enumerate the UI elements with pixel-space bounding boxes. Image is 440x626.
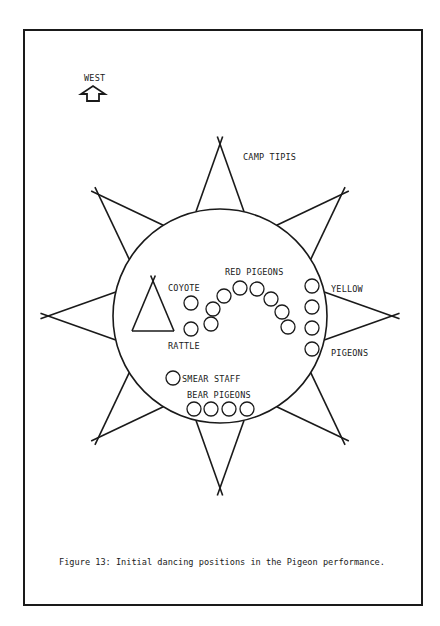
red-pigeon-dancer-circle-icon <box>264 292 278 306</box>
bear-pigeon-dancer-circle-icon <box>187 402 201 416</box>
camp-tipis-label: CAMP TIPIS <box>243 152 296 162</box>
compass: WEST <box>81 73 105 101</box>
tipi-icon <box>91 373 163 445</box>
tipi-icon <box>277 187 349 259</box>
tipi-pole <box>132 275 155 331</box>
tipi-pole <box>277 191 349 225</box>
figure-caption: Figure 13: Initial dancing positions in … <box>59 557 385 567</box>
tipi-icon <box>196 136 244 211</box>
coyote-label: COYOTE <box>168 283 200 293</box>
yellow-pigeon-dancer-circle-icon <box>305 342 319 356</box>
bear-pigeons-label: BEAR PIGEONS <box>187 390 251 400</box>
tipi-pole <box>95 187 129 259</box>
rattle-dancer-circle-icon <box>184 322 198 336</box>
tipi-pole <box>277 407 349 441</box>
yellow-label: YELLOW <box>331 284 364 294</box>
camp-circle-group: CAMP TIPIS <box>40 136 399 495</box>
tipi-icon <box>196 420 244 495</box>
figure-frame <box>24 30 422 605</box>
tipi-pole <box>311 187 345 259</box>
tipi-pole <box>91 407 163 441</box>
rattle-label: RATTLE <box>168 341 200 351</box>
pigeons-label: PIGEONS <box>331 348 368 358</box>
tipi-pole <box>196 420 223 495</box>
tipi-pole <box>324 292 399 319</box>
tipi-pole <box>217 420 244 495</box>
camp-tipis <box>40 136 399 495</box>
coyote-dancer-circle-icon <box>184 296 198 310</box>
smear-staff-label: SMEAR STAFF <box>182 374 241 384</box>
yellow-pigeon-dancer-circle-icon <box>305 279 319 293</box>
figure-page: WEST CAMP TIPIS COYOTE RATTLE RED PIGEON… <box>0 0 440 626</box>
bear-pigeon-dancer-circle-icon <box>204 402 218 416</box>
smear-staff-dancer-circle-icon <box>166 371 180 385</box>
bear-pigeon-dancer-circle-icon <box>240 402 254 416</box>
bear-pigeon-dancer-circle-icon <box>222 402 236 416</box>
tipi-icon <box>324 292 399 340</box>
tipi-icon <box>277 373 349 445</box>
tipi-pole <box>40 292 115 319</box>
red-pigeons-label: RED PIGEONS <box>225 267 284 277</box>
west-label: WEST <box>84 73 105 83</box>
tipi-pole <box>196 136 223 211</box>
tipi-pole <box>217 136 244 211</box>
tipi-pole <box>91 191 163 225</box>
tipi-pole <box>324 313 399 340</box>
red-pigeon-dancer-circle-icon <box>281 320 295 334</box>
up-arrow-icon <box>81 86 105 101</box>
red-pigeon-dancer-circle-icon <box>206 302 220 316</box>
red-pigeon-dancer-circle-icon <box>233 281 247 295</box>
tipi-pole <box>95 373 129 445</box>
red-pigeon-dancer-circle-icon <box>250 282 264 296</box>
red-pigeon-dancer-circle-icon <box>217 289 231 303</box>
tipi-icon <box>91 187 163 259</box>
yellow-pigeon-dancer-circle-icon <box>305 321 319 335</box>
yellow-pigeon-dancer-circle-icon <box>305 300 319 314</box>
tipi-pole <box>40 313 115 340</box>
tipi-pole <box>311 373 345 445</box>
red-pigeon-dancer-circle-icon <box>204 317 218 331</box>
red-pigeon-dancer-circle-icon <box>275 305 289 319</box>
tipi-icon <box>40 292 115 340</box>
pigeon-performance-diagram: WEST CAMP TIPIS COYOTE RATTLE RED PIGEON… <box>0 0 440 626</box>
